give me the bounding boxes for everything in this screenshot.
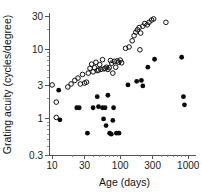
data-point-filled — [57, 117, 62, 122]
data-point-open — [111, 71, 116, 76]
data-point-open — [100, 57, 105, 62]
data-point-filled — [85, 131, 90, 136]
data-point-filled — [179, 55, 184, 60]
data-point-open — [69, 82, 74, 87]
data-point-filled — [134, 79, 139, 84]
data-point-open — [138, 48, 143, 53]
data-point-filled — [140, 84, 145, 89]
data-point-filled — [152, 57, 157, 62]
y-tick-label-30: 30 — [32, 11, 44, 22]
x-tick-label-1000: 1000 — [177, 160, 200, 171]
x-tick-label-10: 10 — [47, 160, 59, 171]
data-point-filled — [182, 102, 187, 107]
data-point-filled — [110, 118, 115, 123]
data-point-filled — [139, 78, 144, 83]
data-point-filled — [95, 94, 100, 99]
data-point-filled — [56, 88, 61, 93]
data-point-filled — [111, 105, 116, 110]
x-tick-label-100: 100 — [112, 160, 129, 171]
data-point-open — [86, 71, 91, 76]
data-point-open — [164, 20, 169, 25]
data-point-filled — [104, 123, 109, 128]
data-point-filled — [103, 105, 108, 110]
data-point-open — [130, 39, 135, 44]
data-point-filled — [91, 105, 96, 110]
data-point-filled — [109, 132, 114, 137]
data-point-filled — [126, 83, 131, 88]
y-tick-label-3: 3 — [37, 80, 43, 91]
data-point-filled — [117, 131, 122, 136]
data-point-filled — [77, 105, 82, 110]
x-tick-label-300: 300 — [144, 160, 161, 171]
data-point-open — [138, 31, 143, 36]
x-tick-label-30: 30 — [79, 160, 91, 171]
y-axis-title: Grating acuity (cycles/degree) — [1, 15, 13, 154]
data-point-open — [76, 76, 81, 81]
data-point-filled — [145, 65, 150, 70]
y-tick-label-1: 1 — [37, 113, 43, 124]
data-point-filled — [96, 104, 101, 109]
scatter-plot-svg: 0.313103010301003001000Age (days)Grating… — [0, 0, 202, 193]
data-point-filled — [106, 93, 111, 98]
chart-figure: 0.313103010301003001000Age (days)Grating… — [0, 0, 202, 193]
data-point-open — [54, 100, 59, 105]
data-point-open — [80, 72, 85, 77]
data-point-open — [113, 65, 118, 70]
y-tick-label-10: 10 — [32, 44, 44, 55]
data-point-open — [50, 83, 55, 88]
data-point-filled — [181, 94, 186, 99]
x-axis-title: Age (days) — [99, 176, 150, 188]
y-tick-label-0.3: 0.3 — [29, 150, 43, 161]
data-point-open — [97, 62, 102, 67]
data-point-filled — [101, 116, 106, 121]
